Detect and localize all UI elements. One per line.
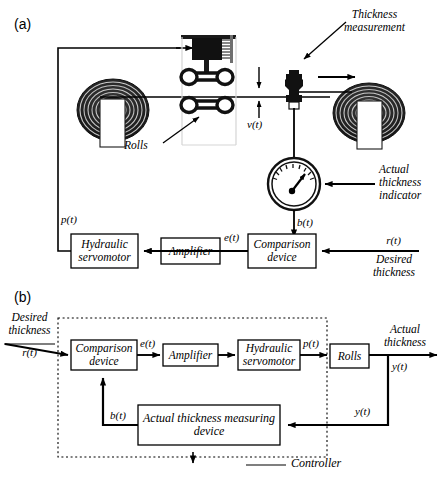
panel-b-desired-thickness-label: Desired thickness — [2, 311, 57, 337]
panel-a-b-signal-label: b(t) — [297, 216, 313, 228]
panel-b-output-y-signal-label: y(t) — [392, 360, 407, 372]
panel-b-label: (b) — [14, 290, 31, 306]
right-coil — [333, 83, 405, 149]
thickness-measurement-callout-arrow — [304, 22, 346, 59]
panel-a-block-comparison-device[interactable]: Comparison device — [248, 234, 316, 268]
panel-a-e-signal-label: e(t) — [224, 231, 239, 243]
controller-label-leader — [193, 452, 286, 465]
panel-b-block-actual-thickness-measuring-device[interactable]: Actual thickness measuring device — [138, 405, 280, 445]
rolls-callout-arrow — [163, 117, 199, 143]
panel-a-block-hydraulic-servomotor[interactable]: Hydraulic servomotor — [71, 234, 138, 268]
panel-a-desired-thickness-label: Desired thickness — [363, 253, 425, 279]
panel-b-p-signal-label: p(t) — [303, 337, 319, 349]
panel-a-label: (a) — [14, 17, 31, 33]
panel-b-e-signal-label: e(t) — [140, 337, 155, 349]
rolls-label: Rolls — [124, 139, 148, 152]
controller-label: Controller — [291, 457, 341, 470]
panel-b-feedback-y-signal-label: y(t) — [355, 405, 370, 417]
panel-b-block-comparison-device[interactable]: Comparison device — [71, 340, 137, 370]
panel-a-block-amplifier[interactable]: Amplifier — [161, 238, 220, 264]
roll-stand — [181, 70, 233, 113]
thickness-measurement-label: Thickness measurement — [344, 8, 405, 34]
thickness-sensor — [285, 70, 303, 109]
panel-b-feedback-b-signal-label: b(t) — [110, 409, 126, 421]
hydraulic-ram — [181, 35, 236, 72]
panel-a-p-signal-label: p(t) — [61, 213, 77, 225]
thickness-gauge — [268, 158, 320, 210]
left-coil — [77, 79, 149, 147]
panel-b-block-hydraulic-servomotor[interactable]: Hydraulic servomotor — [238, 340, 300, 370]
panel-b-block-amplifier[interactable]: Amplifier — [163, 344, 218, 366]
panel-b-r-signal-label: r(t) — [2, 346, 57, 358]
actual-thickness-indicator-label: Actual thickness indicator — [379, 163, 421, 202]
panel-a-r-signal-label: r(t) — [368, 234, 419, 246]
figure-canvas: (a) (b) Thickness measurement Rolls Actu… — [0, 0, 442, 477]
panel-a-v-signal-label: v(t) — [247, 118, 262, 130]
panel-b-actual-thickness-label: Actual thickness — [368, 323, 442, 349]
panel-b-block-rolls[interactable]: Rolls — [330, 344, 369, 368]
